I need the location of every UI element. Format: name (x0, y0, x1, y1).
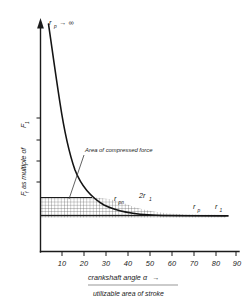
right-rp-main: r (193, 202, 196, 211)
right-r1-sub: 1 (220, 208, 223, 213)
x-tick-label-30: 30 (102, 259, 111, 268)
compressed-force-area (39, 195, 229, 221)
x-tick-label-10: 10 (58, 259, 67, 268)
2r1-label-sub: 1 (149, 197, 152, 202)
x-axis-caption-symbol: α (143, 273, 148, 282)
chart-canvas: 10 20 30 40 50 60 70 80 90 r p → ∞ F f a… (0, 0, 250, 308)
y-axis-caption-sub2: 1 (25, 121, 30, 124)
x-tick-label-80: 80 (212, 259, 221, 268)
rp-label-tail: → ∞ (59, 18, 74, 27)
x-axis-caption-main: crankshaft angle (88, 273, 141, 282)
right-r1-label: r 1 (215, 202, 223, 213)
piston-force-curve (49, 24, 229, 216)
y-axis-caption-part2: as multiple of (20, 147, 28, 189)
rpn-label-sub: pn (118, 200, 125, 205)
2r1-label: 2r 1 (138, 191, 152, 202)
y-axis-caption-sub1: f (25, 191, 30, 193)
x-axis (41, 252, 240, 257)
bottom-caption: utilizable area of stroke (93, 290, 164, 297)
right-rp-label: r p (193, 202, 201, 213)
x-tick-labels: 10 20 30 40 50 60 70 80 90 (58, 259, 242, 268)
x-tick-label-40: 40 (124, 259, 133, 268)
x-tick-label-60: 60 (168, 259, 177, 268)
y-axis-caption: F f as multiple of F 1 (20, 121, 30, 196)
right-rp-sub: p (197, 208, 201, 213)
engineering-chart-figure: 10 20 30 40 50 60 70 80 90 r p → ∞ F f a… (0, 0, 250, 308)
rp-infinity-label: r p → ∞ (49, 18, 74, 29)
x-tick-label-70: 70 (190, 259, 199, 268)
x-axis-caption-arrow: → (152, 273, 159, 282)
2r1-label-main: 2r (138, 191, 146, 200)
crosshatch-band (39, 195, 229, 221)
rp-label-main: r (49, 18, 52, 27)
x-tick-label-20: 20 (79, 259, 89, 268)
annotation-leader-line (69, 155, 84, 199)
rpn-label: r pn (114, 194, 124, 205)
x-tick-label-90: 90 (233, 259, 242, 268)
y-axis-arrowhead (37, 18, 44, 29)
compressed-force-label: Area of compressed force (84, 147, 153, 153)
x-axis-caption: crankshaft angle α → (88, 273, 178, 285)
right-r1-main: r (215, 202, 218, 211)
rp-label-sub: p (53, 24, 57, 29)
x-tick-label-50: 50 (146, 259, 155, 268)
